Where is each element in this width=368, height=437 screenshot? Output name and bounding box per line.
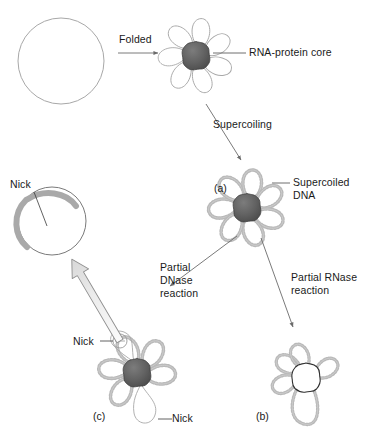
partial-rnase-label-line1: Partial RNase: [291, 271, 357, 284]
hollow-core-shape-b: [292, 363, 321, 392]
partial-dnase-label-line2: DNase: [160, 274, 193, 287]
relaxed-circular-dna: [18, 18, 104, 104]
nick-label-c-upper: Nick: [73, 335, 94, 348]
diagram-canvas: [0, 0, 368, 437]
rna-protein-core-shape-c: [123, 359, 151, 387]
nicked-relaxed-circle: [16, 187, 86, 255]
rna-protein-core-label: RNA-protein core: [249, 46, 332, 59]
nick-label-c-lower: Nick: [172, 412, 193, 425]
supercoiled-dna-label-line2: DNA: [293, 189, 315, 202]
panel-label-b: (b): [256, 410, 269, 422]
rnase-digested-nucleoid: [270, 342, 341, 424]
rna-protein-core-shape-a: [233, 194, 261, 222]
nick-top-left-leader: [34, 192, 47, 226]
release-block-arrow: [64, 254, 129, 345]
rnase-arrow: [261, 238, 293, 327]
nucleoid-diagram: Folded RNA-protein core Supercoiling Sup…: [0, 0, 368, 437]
folded-label: Folded: [119, 33, 152, 46]
partial-dnase-label-line3: reaction: [160, 287, 198, 300]
partial-dnase-label-line1: Partial: [160, 261, 190, 274]
panel-label-a: (a): [214, 182, 227, 194]
nick-label-top-left: Nick: [10, 178, 31, 191]
partial-rnase-label-line2: reaction: [291, 284, 329, 297]
panel-label-c: (c): [93, 410, 105, 422]
folded-rosette-dna: [158, 17, 246, 95]
supercoiling-label: Supercoiling: [213, 118, 272, 131]
rna-protein-core-shape: [182, 42, 210, 70]
supercoiled-rosette-dna: [209, 168, 290, 247]
supercoiling-arrow: [206, 104, 241, 160]
supercoiled-dna-label-line1: Supercoiled: [293, 176, 350, 189]
dnase-nicked-nucleoid: [97, 331, 176, 423]
